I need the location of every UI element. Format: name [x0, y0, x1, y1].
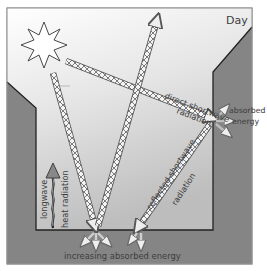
sun-icon — [21, 22, 67, 68]
urban-canyon-radiation-diagram: Day direct shortwave radiation absorbed … — [0, 0, 267, 271]
longwave-label: longwave — [39, 180, 49, 219]
heat-radiation-label: heat radiation — [60, 170, 70, 228]
title-day: Day — [226, 14, 248, 27]
diagram-canvas: Day direct shortwave radiation absorbed … — [0, 0, 267, 271]
ground-absorbed-label: increasing absorbed energy — [64, 251, 181, 261]
energy-label: energy — [232, 117, 260, 126]
absorbed-label: absorbed — [229, 106, 266, 115]
